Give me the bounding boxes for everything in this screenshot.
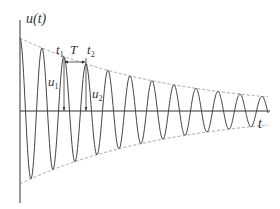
period-arrow-right-head [82,61,86,64]
u2-label-sub: 2 [99,94,103,103]
u1-arrow-head [63,107,66,111]
t2-label-sub: 2 [91,50,95,59]
damped-signal-curve [20,38,268,179]
t2-label: t2 [87,43,95,59]
y-axis-label: u(t) [26,12,46,26]
u1-label: u1 [48,75,59,91]
period-label: T [70,43,77,56]
u2-arrow-head [85,107,88,111]
damped-oscillation-diagram [0,0,280,209]
x-axis-label: t [258,117,262,131]
u2-label: u2 [92,87,103,103]
u1-label-sub: 1 [55,82,59,91]
t1-label-sub: 1 [60,50,64,59]
t1-label: t1 [56,43,64,59]
